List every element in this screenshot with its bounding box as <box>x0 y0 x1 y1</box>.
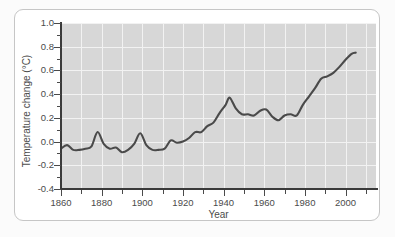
y-axis-tick-major <box>54 118 61 119</box>
x-axis-tick-label: 1860 <box>41 198 81 208</box>
y-axis-tick-minor <box>57 82 61 83</box>
x-axis-tick-label: 1960 <box>244 198 284 208</box>
x-axis-tick-minor <box>244 190 245 194</box>
y-axis-tick-minor <box>57 130 61 131</box>
x-axis-tick-major <box>224 190 225 196</box>
y-axis-tick-label: 0.6 <box>41 65 54 75</box>
x-axis-spine <box>60 188 378 190</box>
y-axis-tick-major <box>54 142 61 143</box>
x-axis-tick-minor <box>285 190 286 194</box>
x-axis-tick-minor <box>325 190 326 194</box>
x-axis-tick-major <box>142 190 143 196</box>
y-axis-tick-major <box>54 23 61 24</box>
x-axis-tick-major <box>264 190 265 196</box>
y-axis-title: Temperature change (°C) <box>22 36 32 186</box>
y-axis-tick-label: -0.2 <box>38 160 54 170</box>
y-axis-tick-minor <box>57 106 61 107</box>
y-axis-tick-label: 1.0 <box>41 18 54 28</box>
series-path-global-temperature <box>61 53 356 153</box>
y-axis-tick-minor <box>57 59 61 60</box>
x-axis-tick-minor <box>122 190 123 194</box>
x-axis-tick-label: 1900 <box>122 198 162 208</box>
x-axis-tick-minor <box>203 190 204 194</box>
x-axis-tick-major <box>305 190 306 196</box>
y-axis-tick-major <box>54 47 61 48</box>
temperature-change-line-chart: -0.4-0.20.00.20.40.60.81.0 1860188019001… <box>0 0 395 237</box>
y-axis-tick-major <box>54 94 61 95</box>
x-axis-tick-label: 1940 <box>204 198 244 208</box>
x-axis-tick-major <box>346 190 347 196</box>
x-axis-tick-minor <box>81 190 82 194</box>
x-axis-tick-major <box>61 190 62 196</box>
x-axis-tick-label: 2000 <box>326 198 366 208</box>
x-axis-tick-label: 1880 <box>82 198 122 208</box>
y-axis-tick-label: 0.8 <box>41 42 54 52</box>
x-axis-tick-minor <box>366 190 367 194</box>
x-axis-tick-label: 1920 <box>163 198 203 208</box>
y-axis-tick-label: 0.2 <box>41 113 54 123</box>
y-axis-tick-label: -0.4 <box>38 184 54 194</box>
y-axis-tick-major <box>54 70 61 71</box>
y-axis-tick-label: 0.4 <box>41 89 54 99</box>
y-axis-tick-major <box>54 165 61 166</box>
x-axis-tick-minor <box>163 190 164 194</box>
x-axis-tick-major <box>183 190 184 196</box>
y-axis-tick-major <box>54 189 61 190</box>
y-axis-tick-minor <box>57 35 61 36</box>
temperature-series-line <box>61 23 376 189</box>
plot-area <box>61 23 376 189</box>
x-axis-tick-major <box>102 190 103 196</box>
y-axis-tick-label: 0.0 <box>41 137 54 147</box>
x-axis-title: Year <box>61 210 376 220</box>
y-axis-tick-minor <box>57 177 61 178</box>
y-axis-tick-minor <box>57 153 61 154</box>
x-axis-tick-label: 1980 <box>285 198 325 208</box>
